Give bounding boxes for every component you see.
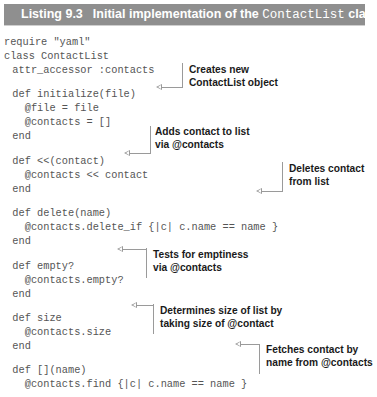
code-line: class ContactList — [4, 50, 109, 62]
code-line: @contacts = [] — [0, 116, 111, 128]
annotation-text: Deletes contact from list — [289, 163, 364, 188]
listing-title-code: ContactList — [262, 8, 345, 22]
code-line: end — [0, 130, 31, 142]
code-line: @contacts.delete_if {|c| c.name == name … — [0, 221, 278, 233]
code-line: end — [0, 235, 31, 247]
code-line: @contacts << contact — [0, 169, 148, 181]
code-line: end — [0, 340, 31, 352]
annotation-text: Creates new ContactList object — [189, 64, 278, 89]
code-line: @contacts.size — [0, 326, 111, 338]
code-line: @file = file — [0, 102, 99, 114]
annotation-text: Tests for emptiness via @contacts — [153, 249, 249, 274]
annotation-text: Adds contact to list via @contacts — [155, 126, 250, 151]
listing-number: Listing 9.3 — [21, 7, 83, 21]
listing-title-suffix: class — [345, 7, 377, 21]
code-line: require "yaml" — [4, 36, 91, 48]
annotation-text: Determines size of list by taking size o… — [160, 305, 282, 330]
annotation-text: Fetches contact by name from @contacts — [266, 344, 373, 369]
code-line: attr_accessor :contacts — [0, 64, 154, 76]
code-line: def initialize(file) — [0, 88, 136, 100]
code-line: def empty? — [0, 260, 74, 272]
code-line: def size — [0, 312, 62, 324]
code-line: end — [0, 288, 31, 300]
code-line: end — [0, 183, 31, 195]
code-line: @contacts.find {|c| c.name == name } — [0, 378, 247, 390]
code-line: def <<(contact) — [0, 155, 105, 167]
listing-header: Listing 9.3Initial implementation of the… — [4, 4, 365, 26]
code-line: @contacts.empty? — [0, 274, 124, 286]
listing-title-prefix: Initial implementation of the — [93, 7, 262, 21]
code-line: def delete(name) — [0, 207, 111, 219]
code-line: def [](name) — [0, 364, 87, 376]
